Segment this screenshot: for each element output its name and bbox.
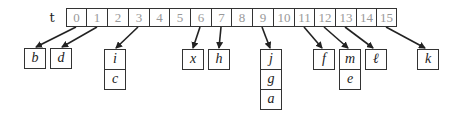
chain-node-a: a bbox=[260, 89, 282, 110]
array-cell-0: 0 bbox=[66, 8, 87, 27]
chain-node-x: x bbox=[182, 49, 204, 70]
array-cell-11: 11 bbox=[294, 8, 315, 27]
array-cell-2: 2 bbox=[107, 8, 129, 27]
chain-node-e: e bbox=[339, 69, 361, 90]
arrow-11-to-f bbox=[304, 27, 322, 48]
array-cell-7: 7 bbox=[211, 8, 232, 27]
array-cell-1: 1 bbox=[86, 8, 108, 27]
array-cell-5: 5 bbox=[169, 8, 191, 27]
array-label: t bbox=[45, 8, 59, 28]
arrow-3-to-i bbox=[116, 27, 138, 48]
array-cell-15: 15 bbox=[376, 8, 397, 27]
chain-node-m: m bbox=[339, 49, 361, 70]
array-cell-6: 6 bbox=[190, 8, 212, 27]
arrow-1-to-d bbox=[62, 27, 97, 47]
arrow-12-to-m bbox=[324, 27, 348, 48]
chain-node-c: c bbox=[104, 69, 126, 90]
arrow-9-to-j bbox=[262, 27, 270, 48]
array-cell-4: 4 bbox=[149, 8, 170, 27]
array-cell-8: 8 bbox=[231, 8, 253, 27]
arrow-6-to-x bbox=[193, 27, 200, 48]
hash-table-diagram: t 0 1 2 3 4 5 6 7 8 9 10 11 12 13 14 15 … bbox=[0, 0, 461, 120]
array-cell-12: 12 bbox=[314, 8, 336, 27]
chain-node-f: f bbox=[313, 49, 335, 70]
chain-node-k: k bbox=[417, 49, 439, 70]
arrow-0-to-b bbox=[36, 27, 76, 47]
arrow-7-to-h bbox=[219, 27, 221, 48]
chain-node-d: d bbox=[50, 48, 72, 69]
array-cell-3: 3 bbox=[128, 8, 150, 27]
array-cell-14: 14 bbox=[356, 8, 377, 27]
chain-node-g: g bbox=[260, 69, 282, 90]
arrow-13-to-l bbox=[345, 27, 373, 48]
array-cell-13: 13 bbox=[335, 8, 357, 27]
array-cell-10: 10 bbox=[273, 8, 295, 27]
chain-node-h: h bbox=[208, 49, 230, 70]
arrow-15-to-k bbox=[386, 27, 425, 48]
chain-node-j: j bbox=[260, 49, 282, 70]
chain-node-i: i bbox=[104, 49, 126, 70]
chain-node-l: ℓ bbox=[365, 49, 387, 70]
array-cell-9: 9 bbox=[252, 8, 274, 27]
chain-node-b: b bbox=[24, 48, 46, 69]
